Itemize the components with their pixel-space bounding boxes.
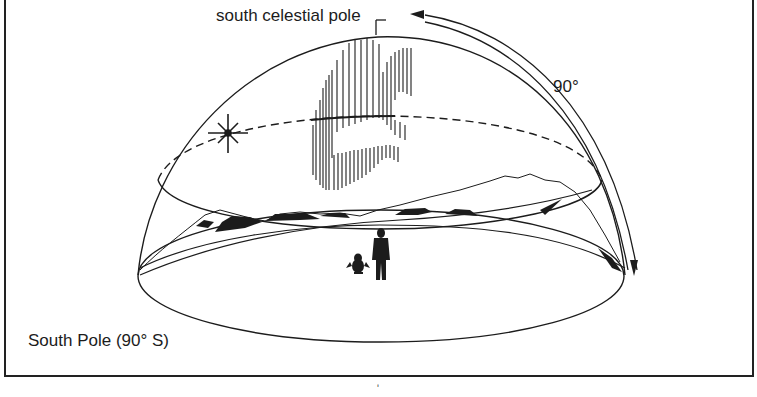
pole-arrowhead-icon: [410, 10, 424, 19]
celestial-pole-label: south celestial pole: [216, 6, 361, 26]
altitude-arc-outer: [425, 15, 637, 270]
sun-path-back: [158, 116, 602, 180]
stray-mark: ʹ: [377, 383, 379, 394]
star-icon: [208, 114, 248, 153]
aurora-curtain: [313, 38, 411, 190]
mountain-silhouettes: [196, 208, 622, 272]
angle-label: 90°: [553, 77, 579, 97]
location-label: South Pole (90° S): [28, 331, 169, 351]
penguin-icon: [346, 254, 370, 275]
person-icon: [372, 228, 390, 280]
aurora-path-crossing: [311, 116, 395, 120]
